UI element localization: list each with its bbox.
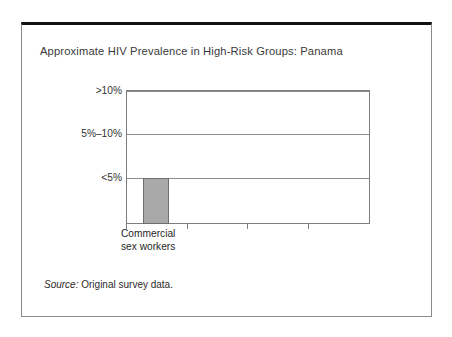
x-axis-category-label: Commercial sex workers xyxy=(121,228,175,253)
bar-commercial-sex-workers[interactable] xyxy=(143,178,169,224)
source-note: Source: Original survey data. xyxy=(44,279,173,290)
y-axis-tick-labels: >10% 5%–10% <5% xyxy=(40,90,122,224)
y-tick-label-low: <5% xyxy=(101,172,122,183)
y-tick-label-high: >10% xyxy=(96,85,122,96)
x-tick-3 xyxy=(308,224,309,229)
x-axis-category-label-line2: sex workers xyxy=(121,241,175,254)
y-tick-label-mid: 5%–10% xyxy=(81,128,122,139)
plot-area xyxy=(126,90,370,224)
chart-title: Approximate HIV Prevalence in High-Risk … xyxy=(40,45,343,57)
gridline-mid xyxy=(127,134,369,135)
source-text: Original survey data. xyxy=(78,279,173,290)
x-tick-1 xyxy=(187,224,188,229)
x-axis-category-label-line1: Commercial xyxy=(121,228,175,241)
gridline-high xyxy=(127,91,369,92)
source-label: Source: xyxy=(44,279,78,290)
x-tick-2 xyxy=(247,224,248,229)
